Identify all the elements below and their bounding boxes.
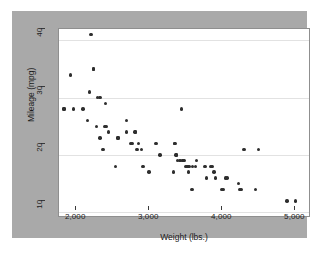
scatter-point xyxy=(294,199,297,202)
scatter-point xyxy=(98,136,101,139)
scatter-point xyxy=(187,170,190,173)
y-tick-label: 40 xyxy=(35,28,44,68)
scatter-point xyxy=(81,107,84,110)
scatter-point xyxy=(114,165,117,168)
scatter-point xyxy=(116,136,119,139)
x-axis-title: Weight (lbs.) xyxy=(160,232,208,242)
scatter-point xyxy=(140,148,143,151)
scatter-point xyxy=(194,165,197,168)
x-tick-mark xyxy=(75,206,76,210)
scatter-point xyxy=(92,67,95,70)
scatter-point xyxy=(214,176,217,179)
scatter-point xyxy=(135,148,138,151)
scatter-point xyxy=(195,159,198,162)
plot-area xyxy=(58,28,310,217)
scatter-point xyxy=(86,119,89,122)
scatter-point xyxy=(134,130,137,133)
scatter-point xyxy=(154,142,157,145)
scatter-point xyxy=(190,188,193,191)
scatter-point xyxy=(107,130,110,133)
scatter-point xyxy=(125,130,128,133)
x-tick-label: 4,000 xyxy=(211,212,232,221)
gridline xyxy=(59,40,309,41)
scatter-point xyxy=(98,96,101,99)
scatter-point xyxy=(225,176,228,179)
x-tick-mark xyxy=(221,206,222,210)
x-tick-label: 2,000 xyxy=(65,212,86,221)
scatter-point xyxy=(141,165,144,168)
gridline xyxy=(59,155,309,156)
scatter-point xyxy=(101,148,104,151)
scatter-point xyxy=(240,188,243,191)
scatter-point xyxy=(237,182,240,185)
scatter-point xyxy=(242,148,245,151)
scatter-point xyxy=(180,107,183,110)
chart-figure: 10203040 2,0003,0004,0005,000 Mileage (m… xyxy=(0,0,316,253)
scatter-point xyxy=(175,153,178,156)
scatter-point xyxy=(203,165,206,168)
scatter-point xyxy=(212,170,215,173)
scatter-point xyxy=(130,142,133,145)
scatter-point xyxy=(95,125,98,128)
scatter-point xyxy=(182,159,185,162)
x-tick-mark xyxy=(294,206,295,210)
y-tick-label: 10 xyxy=(35,200,44,240)
scatter-point xyxy=(88,90,91,93)
scatter-point xyxy=(62,107,65,110)
x-tick-label: 3,000 xyxy=(138,212,159,221)
scatter-point xyxy=(158,153,161,156)
x-tick-label: 5,000 xyxy=(284,212,305,221)
y-axis-title: Mileage (mpg) xyxy=(26,68,36,122)
scatter-point xyxy=(69,73,72,76)
scatter-point xyxy=(205,176,208,179)
scatter-point xyxy=(137,142,140,145)
scatter-point xyxy=(211,165,214,168)
scatter-point xyxy=(72,107,75,110)
scatter-point xyxy=(285,199,288,202)
scatter-point xyxy=(222,188,225,191)
y-tick-label: 20 xyxy=(35,143,44,183)
scatter-point xyxy=(125,119,128,122)
scatter-point xyxy=(172,170,175,173)
gridline xyxy=(59,212,309,213)
scatter-point xyxy=(254,188,257,191)
graph-region: 10203040 2,0003,0004,0005,000 Mileage (m… xyxy=(12,11,307,238)
scatter-point xyxy=(173,142,176,145)
scatter-point xyxy=(257,148,260,151)
scatter-point xyxy=(89,33,92,36)
scatter-point xyxy=(104,102,107,105)
x-tick-mark xyxy=(148,206,149,210)
scatter-point xyxy=(147,170,150,173)
scatter-point xyxy=(105,125,108,128)
